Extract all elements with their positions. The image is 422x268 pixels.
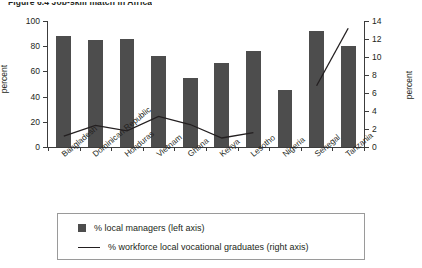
legend-label: % local managers (left axis) (94, 223, 205, 233)
x-tick-mark (143, 147, 144, 151)
right-tick-label: 12 (372, 34, 381, 44)
right-tick-label: 0 (372, 142, 377, 152)
right-tick-label: 14 (372, 16, 381, 26)
figure-title: Figure 6.4 Job-skill match in Africa (8, 0, 152, 7)
left-tick-label: 0 (35, 142, 40, 152)
x-tick-mark (174, 147, 175, 151)
x-tick-mark (238, 147, 239, 151)
legend-item-local-managers: % local managers (left axis) (78, 223, 205, 233)
left-tick-label: 80 (31, 41, 40, 51)
x-tick-mark (206, 147, 207, 151)
right-tick-label: 6 (372, 88, 377, 98)
left-tick-label: 20 (31, 117, 40, 127)
right-tick-mark (364, 75, 369, 76)
x-tick-mark (48, 147, 49, 151)
x-tick-mark (364, 147, 365, 151)
line-segment (317, 28, 349, 86)
right-tick-label: 4 (372, 106, 377, 116)
right-tick-label: 8 (372, 70, 377, 80)
legend-square-icon (78, 224, 86, 232)
right-tick-mark (364, 111, 369, 112)
right-tick-mark (364, 57, 369, 58)
x-tick-mark (80, 147, 81, 151)
right-tick-mark (364, 93, 369, 94)
right-tick-label: 10 (372, 52, 381, 62)
legend-item-vocational-graduates: % workforce local vocational graduates (… (78, 242, 309, 252)
right-axis-label: percent (404, 71, 414, 99)
left-tick-label: 60 (31, 66, 40, 76)
chart-legend: % local managers (left axis) % workforce… (57, 213, 365, 260)
left-axis-label: percent (0, 65, 9, 93)
right-tick-mark (364, 39, 369, 40)
x-tick-mark (301, 147, 302, 151)
right-tick-mark (364, 21, 369, 22)
x-tick-mark (332, 147, 333, 151)
left-tick-label: 40 (31, 92, 40, 102)
left-tick-label: 100 (26, 16, 40, 26)
x-tick-mark (269, 147, 270, 151)
legend-line-icon (78, 247, 100, 248)
legend-label: % workforce local vocational graduates (… (108, 242, 309, 252)
x-tick-mark (111, 147, 112, 151)
right-tick-label: 2 (372, 124, 377, 134)
